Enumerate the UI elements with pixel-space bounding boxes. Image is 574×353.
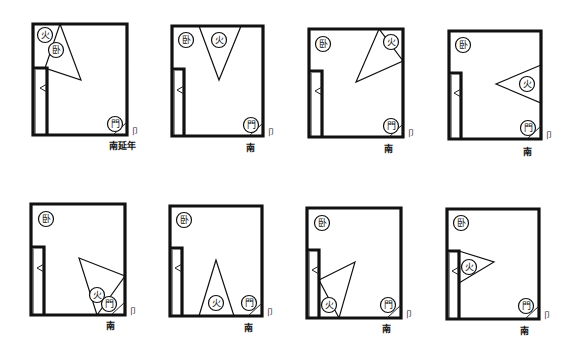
bedroom-label: 卧	[42, 213, 51, 224]
diagram-8: 火 卧 門 卩 南	[447, 209, 551, 336]
door-mark: 卩	[266, 308, 274, 317]
door-label: 門	[524, 123, 533, 133]
door-label: 門	[111, 119, 120, 129]
fire-label: 火	[325, 300, 334, 310]
diagram-6: 火 卧 門 卩 南	[170, 206, 274, 333]
diagram-3: 火 卧 門 卩 南	[309, 29, 415, 154]
diagram-2: 火 卧 門 卩 南	[172, 26, 275, 153]
direction-caption: 南	[384, 143, 393, 154]
direction-caption: 南	[523, 146, 532, 157]
door-mark: 卩	[129, 307, 137, 316]
bedroom-label: 卧	[318, 217, 327, 228]
direction-caption: 南	[106, 320, 115, 331]
fire-label: 火	[523, 79, 532, 89]
door-mark: 卩	[543, 311, 551, 320]
diagram-5: 火 卧 門 卩 南	[31, 204, 137, 331]
direction-caption: 南	[382, 323, 391, 334]
direction-caption: 南	[520, 325, 529, 336]
direction-caption: 南	[244, 322, 253, 333]
door-label: 門	[387, 121, 396, 131]
bedroom-label: 卧	[52, 44, 61, 55]
bedroom-label: 卧	[459, 39, 468, 50]
fire-label: 火	[387, 37, 396, 47]
fire-label: 火	[215, 35, 224, 45]
fire-label: 火	[465, 262, 474, 272]
bedroom-label: 卧	[180, 214, 189, 225]
fire-label: 火	[93, 290, 102, 300]
fire-label: 火	[212, 298, 221, 308]
direction-caption: 南	[246, 142, 255, 153]
bedroom-label: 卧	[319, 38, 328, 49]
bedroom-label: 卧	[457, 217, 466, 228]
fire-label: 火	[41, 30, 50, 40]
door-label: 門	[105, 299, 114, 309]
door-mark: 卩	[405, 310, 413, 319]
diagram-1: 火 卧 門 卩 南延年	[33, 24, 139, 151]
door-mark: 卩	[267, 128, 275, 137]
door-label: 門	[247, 120, 256, 130]
bedroom-label: 卧	[182, 34, 191, 45]
diagram-4: 火 卧 門 卩 南	[449, 31, 553, 157]
direction-caption: 南延年	[109, 140, 136, 151]
door-label: 門	[245, 298, 254, 308]
diagram-7: 火 卧 門 卩 南	[307, 208, 413, 334]
floor-plan-figure: 火 卧 門 卩 南延年 火 卧 門 卩 南 火 卧 門 卩 南	[0, 0, 574, 353]
door-mark: 卩	[131, 127, 139, 136]
door-mark: 卩	[407, 129, 415, 138]
door-label: 門	[384, 300, 393, 310]
door-mark: 卩	[545, 131, 553, 140]
door-label: 門	[522, 301, 531, 311]
